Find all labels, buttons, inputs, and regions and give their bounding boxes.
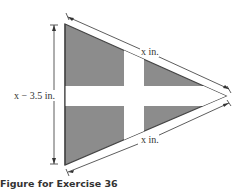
bottom-side-label: x in.	[141, 134, 159, 145]
top-side-label: x in.	[141, 46, 159, 57]
pennant-figure: x − 3.5 in. x in. x in. Figure for Exerc…	[0, 0, 242, 196]
figure-caption: Figure for Exercise 36	[0, 178, 118, 189]
left-side-label: x − 3.5 in.	[14, 90, 55, 101]
